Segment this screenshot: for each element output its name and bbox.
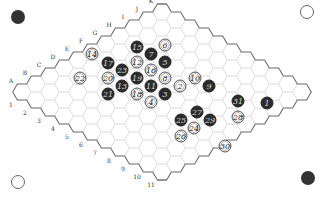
white-stone-22: 22: [74, 72, 87, 85]
row-label-3: 3: [37, 117, 41, 124]
row-label-11: 11: [147, 181, 155, 188]
white-stone-8: 8: [159, 72, 172, 85]
column-label-C: C: [37, 61, 42, 68]
white-stone-2: 2: [174, 80, 187, 93]
black-stone-17: 17: [102, 57, 115, 70]
black-stone-5: 5: [159, 56, 172, 69]
black-stone-9: 9: [203, 80, 216, 93]
white-stone-24: 24: [188, 122, 201, 135]
black-stone-19: 19: [131, 72, 144, 85]
white-stone-12: 12: [131, 56, 144, 69]
row-label-9: 9: [121, 165, 125, 172]
white-stone-20: 20: [102, 72, 115, 85]
top-right-white-marker: [300, 5, 314, 19]
column-label-E: E: [65, 45, 69, 52]
black-stone-29: 29: [204, 114, 217, 127]
black-stone-15: 15: [131, 41, 144, 54]
black-stone-31: 31: [232, 95, 245, 108]
bottom-right-black-marker: [301, 171, 315, 185]
white-stone-16: 16: [145, 64, 158, 77]
row-label-6: 6: [79, 141, 83, 148]
column-label-F: F: [79, 37, 83, 44]
column-label-K: K: [149, 0, 153, 4]
black-stone-3: 3: [159, 88, 172, 101]
column-label-B: B: [23, 69, 27, 76]
row-label-2: 2: [23, 109, 27, 116]
column-label-G: G: [93, 29, 98, 36]
white-stone-26: 26: [175, 130, 188, 143]
white-stone-14: 14: [86, 48, 99, 61]
white-stone-4: 4: [145, 96, 158, 109]
top-left-black-marker: [11, 10, 25, 24]
column-label-D: D: [51, 53, 56, 60]
black-stone-23: 23: [116, 64, 129, 77]
row-label-8: 8: [107, 157, 111, 164]
black-stone-11: 11: [145, 80, 158, 93]
row-label-1: 1: [9, 101, 13, 108]
column-label-A: A: [9, 77, 13, 84]
row-label-4: 4: [51, 125, 55, 132]
black-stone-25: 25: [175, 114, 188, 127]
column-label-J: J: [136, 5, 138, 12]
black-stone-1: 1: [261, 97, 274, 110]
column-label-I: I: [122, 13, 124, 20]
white-stone-18: 18: [131, 88, 144, 101]
row-label-5: 5: [65, 133, 69, 140]
black-stone-7: 7: [145, 48, 158, 61]
row-label-7: 7: [93, 149, 97, 156]
black-stone-27: 27: [191, 106, 204, 119]
white-stone-30: 30: [219, 140, 232, 153]
column-label-H: H: [106, 21, 111, 28]
black-stone-13: 13: [116, 80, 129, 93]
white-stone-6: 6: [159, 39, 172, 52]
bottom-left-white-marker: [11, 175, 25, 189]
hex-board-diagram: ABCDEFGHIJK1234567891011 123456789101112…: [0, 0, 321, 201]
white-stone-10: 10: [189, 72, 202, 85]
black-stone-21: 21: [102, 88, 115, 101]
row-label-10: 10: [133, 173, 141, 180]
white-stone-28: 28: [232, 111, 245, 124]
